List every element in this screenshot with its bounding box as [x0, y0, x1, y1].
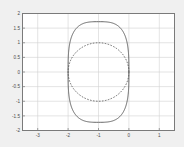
x-tick-label: 0 [128, 133, 131, 138]
y-tick-label: -1.5 [12, 114, 20, 119]
x-tick-label: -1 [96, 133, 101, 138]
x-axis-tick-labels: -3-2-101 [36, 133, 161, 138]
y-tick-label: -0.5 [12, 84, 20, 89]
plot-canvas: -3-2-101 -2-1.5-1-0.500.511.52 [0, 0, 184, 147]
y-tick-label: 0.5 [14, 55, 21, 60]
y-tick-label: 1 [17, 40, 20, 45]
y-tick-label: -1 [16, 99, 21, 104]
y-tick-label: 1.5 [14, 26, 21, 31]
y-axis-tick-labels: -2-1.5-1-0.500.511.52 [12, 11, 20, 133]
figure-container: -3-2-101 -2-1.5-1-0.500.511.52 [0, 0, 184, 147]
x-tick-label: -3 [36, 133, 41, 138]
x-tick-label: 1 [158, 133, 161, 138]
y-tick-label: -2 [16, 128, 21, 133]
x-tick-label: -2 [66, 133, 71, 138]
y-tick-label: 0 [17, 70, 20, 75]
y-tick-label: 2 [17, 11, 20, 16]
